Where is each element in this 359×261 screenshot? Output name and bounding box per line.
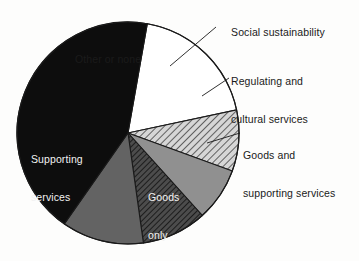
pie-chart-figure: Social sustainability Regulating and cul… (0, 0, 359, 261)
label-goods-only: Goods only (148, 166, 179, 261)
label-social-sustainability: Social sustainability (219, 13, 325, 51)
label-other-or-none-text: Other or none (75, 53, 141, 65)
label-supporting-line1: Supporting (31, 153, 83, 166)
label-other-or-none: Other or none (63, 40, 141, 78)
label-goods-only-line2: only (148, 229, 179, 242)
label-social-sustainability-text: Social sustainability (231, 26, 325, 38)
label-goods-only-line1: Goods (148, 191, 179, 204)
label-supporting-line2: services (31, 191, 83, 204)
label-supporting-services: Supporting services (31, 128, 83, 228)
label-goods-and-supporting-services: Goods and supporting services (243, 124, 335, 224)
label-regulating-line1: Regulating and (231, 75, 308, 88)
label-goods-supporting-line2: supporting services (243, 187, 335, 200)
label-goods-supporting-line1: Goods and (243, 149, 335, 162)
